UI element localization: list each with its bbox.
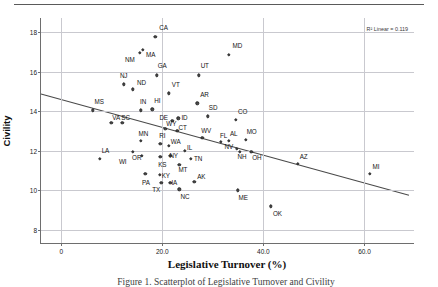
scatter-point-label: MD (233, 42, 243, 49)
scatter-point-label: NY (169, 152, 178, 159)
x-tick-mark (162, 243, 163, 246)
scatter-point-label: SD (209, 104, 218, 111)
scatter-point-label: NM (125, 56, 135, 63)
x-tick-mark (263, 243, 264, 246)
x-axis-label: Legislative Turnover (%) (40, 258, 414, 270)
x-axis-tick-label: 40.0 (257, 248, 270, 255)
gridline-vertical (364, 18, 365, 243)
scatter-point-label: OH (252, 154, 261, 161)
x-axis-tick-label: 20.0 (156, 248, 169, 255)
scatter-point-label: ND (137, 79, 146, 86)
gridline-vertical (263, 18, 264, 243)
scatter-point-label: KY (162, 172, 170, 179)
regression-line (41, 18, 414, 243)
scatter-point-label: MO (247, 128, 257, 135)
scatter-point-label: LA (102, 147, 110, 154)
y-axis-tick-label: 10 (30, 187, 37, 194)
scatter-point-label: VT (172, 81, 180, 88)
scatter-point-label: IA (171, 179, 177, 186)
scatter-point-label: WI (119, 158, 127, 165)
scatter-point-label: ID (181, 114, 187, 121)
scatter-point-label: RI (159, 132, 165, 139)
scatter-point-label: FL (220, 132, 227, 139)
scatter-point-label: SC (121, 114, 130, 121)
scatter-point-label: MN (139, 130, 149, 137)
x-axis-tick-label: 60.0 (358, 248, 371, 255)
gridline-vertical (162, 18, 163, 243)
x-tick-mark (61, 243, 62, 246)
figure-caption: Figure 1. Scatterplot of Legislative Tur… (28, 277, 424, 287)
y-axis-tick-label: 12 (30, 147, 37, 154)
scatter-point-label: OR (132, 154, 141, 161)
y-axis-tick-label: 14 (30, 108, 37, 115)
y-axis-tick-label: 16 (30, 68, 37, 75)
scatter-point-label: AK (197, 173, 205, 180)
scatter-point-label: IL (187, 144, 192, 151)
scatter-point-label: ME (239, 194, 248, 201)
r-squared-annotation: R² Linear = 0.119 (367, 26, 408, 32)
scatter-point-label: MT (178, 166, 187, 173)
scatter-point-label: NV (225, 143, 234, 150)
y-tick-mark (38, 72, 41, 73)
gridline-horizontal (41, 72, 414, 73)
scatter-point-label: CT (178, 124, 186, 131)
y-tick-mark (38, 111, 41, 112)
scatter-point-label: TX (152, 186, 160, 193)
scatter-point-label: HI (154, 97, 160, 104)
figure-container: Civility CAMDMANMGAUTNJNDVTARMSINHISDCOI… (0, 0, 438, 287)
gridline-horizontal (41, 111, 414, 112)
scatter-point-label: AL (230, 130, 238, 137)
scatter-point-label: WA (171, 138, 181, 145)
scatter-point-label: WY (166, 120, 176, 127)
scatter-point-label: IN (140, 98, 146, 105)
scatter-point-label: AR (200, 91, 209, 98)
scatter-point-label: NH (238, 153, 247, 160)
y-axis-tick-label: 18 (30, 28, 37, 35)
scatter-point-label: NC (180, 193, 189, 200)
y-tick-mark (38, 151, 41, 152)
gridline-horizontal (41, 230, 414, 231)
gridline-horizontal (41, 32, 414, 33)
scatter-point-label: UT (201, 62, 209, 69)
scatter-point-label: GA (158, 62, 167, 69)
scatter-point-label: VA (112, 114, 120, 121)
scatter-point-label: MS (95, 98, 104, 105)
x-tick-mark (364, 243, 365, 246)
y-tick-mark (38, 230, 41, 231)
x-axis-tick-label: 0 (59, 248, 63, 255)
scatter-point-label: KS (158, 161, 166, 168)
scatter-point-label: PA (142, 179, 150, 186)
scatter-point-label: OK (273, 210, 282, 217)
y-tick-mark (38, 190, 41, 191)
scatter-point-label: NJ (120, 72, 128, 79)
plot-frame: CAMDMANMGAUTNJNDVTARMSINHISDCOIDDEVASCWY… (40, 18, 414, 244)
y-axis-label: Civility (1, 115, 12, 146)
scatter-point-label: CO (238, 108, 247, 115)
scatter-point-label: AZ (300, 153, 308, 160)
gridline-horizontal (41, 151, 414, 152)
page-top-rule (14, 4, 424, 5)
y-tick-mark (38, 32, 41, 33)
gridline-vertical (61, 18, 62, 243)
plot-area: CAMDMANMGAUTNJNDVTARMSINHISDCOIDDEVASCWY… (41, 18, 414, 243)
scatter-point-label: CA (159, 24, 168, 31)
scatter-point-label: TN (194, 155, 202, 162)
gridline-horizontal (41, 190, 414, 191)
scatter-point-label: WV (201, 127, 211, 134)
scatter-point-label: MI (373, 163, 380, 170)
y-axis-tick-label: 8 (33, 227, 37, 234)
scatter-point-label: MA (146, 51, 155, 58)
